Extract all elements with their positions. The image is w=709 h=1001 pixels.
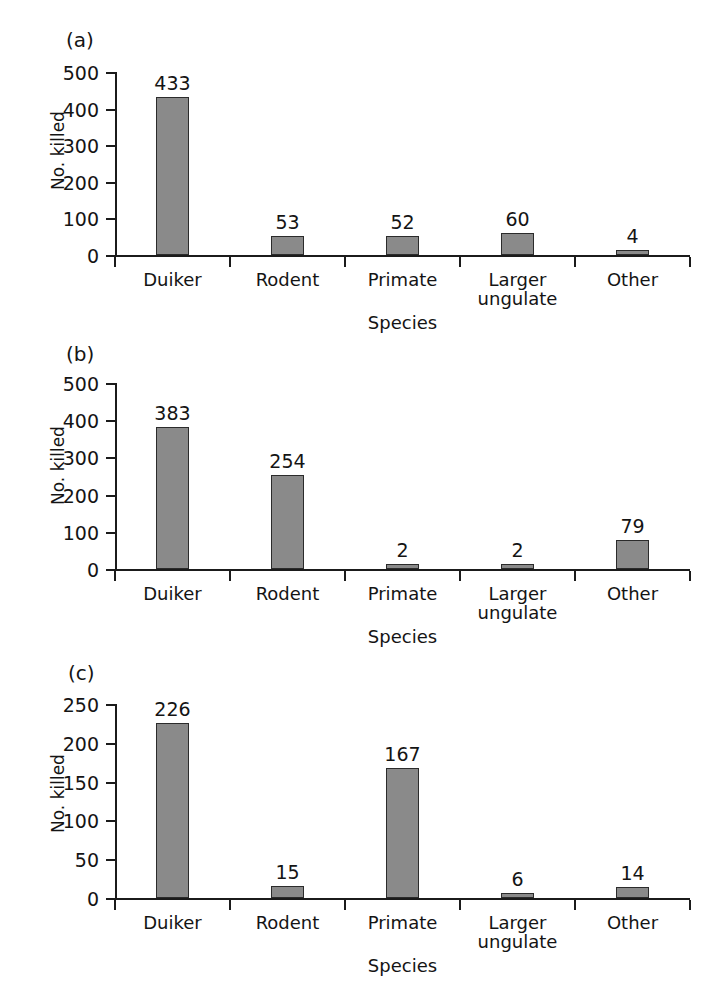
x-axis-category-label: Rodent bbox=[256, 271, 320, 290]
bar bbox=[501, 233, 534, 255]
bar bbox=[271, 886, 304, 898]
category-label-line1: Larger bbox=[488, 583, 546, 604]
x-axis-tick bbox=[114, 571, 116, 581]
x-axis-category-label: Largerungulate bbox=[478, 585, 558, 623]
x-axis-line bbox=[115, 255, 690, 257]
y-axis-tick-label: 200 bbox=[49, 172, 99, 194]
bar bbox=[156, 723, 189, 898]
y-axis-tick-label: 100 bbox=[49, 522, 99, 544]
y-axis-tick-label: 200 bbox=[49, 733, 99, 755]
category-label-line1: Duiker bbox=[143, 912, 202, 933]
x-axis-tick bbox=[574, 257, 576, 267]
category-label-line1: Other bbox=[607, 912, 658, 933]
x-axis-tick bbox=[574, 900, 576, 910]
y-axis-line bbox=[115, 72, 117, 257]
x-axis-tick bbox=[114, 257, 116, 267]
x-axis-category-label: Duiker bbox=[143, 271, 202, 290]
y-axis-tick-label: 200 bbox=[49, 485, 99, 507]
x-axis-category-label: Primate bbox=[368, 585, 438, 604]
category-label-line2: ungulate bbox=[478, 933, 558, 952]
bar-value-label: 167 bbox=[384, 743, 420, 765]
category-label-line1: Rodent bbox=[256, 583, 320, 604]
category-label-line1: Primate bbox=[368, 912, 438, 933]
bar bbox=[386, 564, 419, 569]
y-axis-tick bbox=[106, 182, 115, 184]
x-axis-tick bbox=[344, 900, 346, 910]
bar-value-label: 2 bbox=[396, 539, 408, 561]
panel-label-a: (a) bbox=[66, 28, 94, 52]
bar-value-label: 15 bbox=[275, 861, 299, 883]
y-axis-tick-label: 100 bbox=[49, 208, 99, 230]
x-axis-tick bbox=[114, 900, 116, 910]
bar bbox=[616, 250, 649, 255]
y-axis-line bbox=[115, 383, 117, 571]
y-axis-tick bbox=[106, 859, 115, 861]
panel-b: (b) No. killed0100200300400500383Duiker2… bbox=[0, 312, 709, 652]
y-axis-tick bbox=[106, 420, 115, 422]
bar bbox=[501, 564, 534, 569]
x-axis-tick bbox=[689, 257, 691, 267]
category-label-line1: Rodent bbox=[256, 269, 320, 290]
x-axis-category-label: Largerungulate bbox=[478, 271, 558, 309]
category-label-line2: ungulate bbox=[478, 604, 558, 623]
x-axis-tick bbox=[459, 571, 461, 581]
x-axis-category-label: Duiker bbox=[143, 585, 202, 604]
bar-value-label: 254 bbox=[269, 450, 305, 472]
x-axis-category-label: Rodent bbox=[256, 585, 320, 604]
x-axis-category-label: Other bbox=[607, 914, 658, 933]
bar bbox=[156, 97, 189, 255]
y-axis-tick-label: 0 bbox=[49, 245, 99, 267]
bar-value-label: 14 bbox=[620, 862, 644, 884]
y-axis-tick-label: 400 bbox=[49, 99, 99, 121]
x-axis-label: Species bbox=[368, 955, 437, 976]
x-axis-tick bbox=[689, 571, 691, 581]
x-axis-category-label: Duiker bbox=[143, 914, 202, 933]
category-label-line2: ungulate bbox=[478, 290, 558, 309]
x-axis-tick bbox=[459, 257, 461, 267]
y-axis-tick-label: 300 bbox=[49, 447, 99, 469]
y-axis-tick bbox=[106, 218, 115, 220]
category-label-line1: Rodent bbox=[256, 912, 320, 933]
bar bbox=[616, 887, 649, 898]
bar bbox=[271, 475, 304, 569]
category-label-line1: Duiker bbox=[143, 269, 202, 290]
y-axis-tick bbox=[106, 383, 115, 385]
y-axis-tick bbox=[106, 495, 115, 497]
bar-value-label: 52 bbox=[390, 211, 414, 233]
panel-a: (a) No. killed0100200300400500433Duiker5… bbox=[0, 0, 709, 340]
x-axis-tick bbox=[574, 571, 576, 581]
y-axis-tick bbox=[106, 743, 115, 745]
category-label-line1: Primate bbox=[368, 269, 438, 290]
x-axis-tick bbox=[689, 900, 691, 910]
category-label-line1: Other bbox=[607, 269, 658, 290]
panel-label-c: (c) bbox=[68, 661, 95, 685]
x-axis-category-label: Primate bbox=[368, 914, 438, 933]
bar-value-label: 433 bbox=[154, 72, 190, 94]
bar-value-label: 53 bbox=[275, 211, 299, 233]
y-axis-tick-label: 400 bbox=[49, 410, 99, 432]
bar bbox=[501, 893, 534, 898]
bar-value-label: 383 bbox=[154, 402, 190, 424]
x-axis-category-label: Rodent bbox=[256, 914, 320, 933]
x-axis-category-label: Primate bbox=[368, 271, 438, 290]
x-axis-tick bbox=[229, 257, 231, 267]
category-label-line1: Primate bbox=[368, 583, 438, 604]
bar-value-label: 79 bbox=[620, 515, 644, 537]
x-axis-category-label: Largerungulate bbox=[478, 914, 558, 952]
x-axis-tick bbox=[344, 257, 346, 267]
x-axis-tick bbox=[459, 900, 461, 910]
y-axis-tick-label: 150 bbox=[49, 772, 99, 794]
y-axis-tick-label: 250 bbox=[49, 694, 99, 716]
y-axis-tick-label: 0 bbox=[49, 888, 99, 910]
bar-value-label: 6 bbox=[511, 868, 523, 890]
bar bbox=[271, 236, 304, 255]
bar bbox=[386, 236, 419, 255]
category-label-line1: Larger bbox=[488, 912, 546, 933]
y-axis-tick bbox=[106, 72, 115, 74]
y-axis-line bbox=[115, 704, 117, 900]
bar bbox=[156, 427, 189, 569]
bar bbox=[386, 768, 419, 898]
y-axis-tick bbox=[106, 145, 115, 147]
y-axis-tick-label: 300 bbox=[49, 135, 99, 157]
panel-label-b: (b) bbox=[66, 342, 94, 366]
